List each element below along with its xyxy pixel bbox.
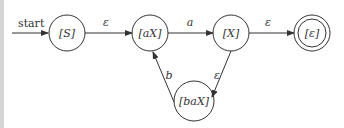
transition-label: ε [103, 16, 109, 29]
state-label: [baX] [179, 95, 210, 108]
transition-label: ε [265, 16, 271, 29]
transition-label: b [165, 69, 172, 82]
state-label: [X] [223, 27, 240, 40]
state-baX: [baX] [174, 81, 214, 121]
state-label: [S] [59, 27, 76, 40]
state-aX: [aX] [132, 15, 168, 51]
automaton-diagram: start [S] [aX] [X] [ε] [baX] ε a ε ε b [0, 0, 344, 128]
state-label: [aX] [139, 27, 163, 40]
transition-label: ε [214, 69, 220, 82]
start-label: start [18, 17, 45, 30]
state-label: [ε] [305, 27, 320, 40]
state-eps-accepting: [ε] [294, 15, 330, 51]
state-X: [X] [213, 15, 249, 51]
state-S: [S] [49, 15, 85, 51]
transition-label: a [187, 16, 194, 29]
